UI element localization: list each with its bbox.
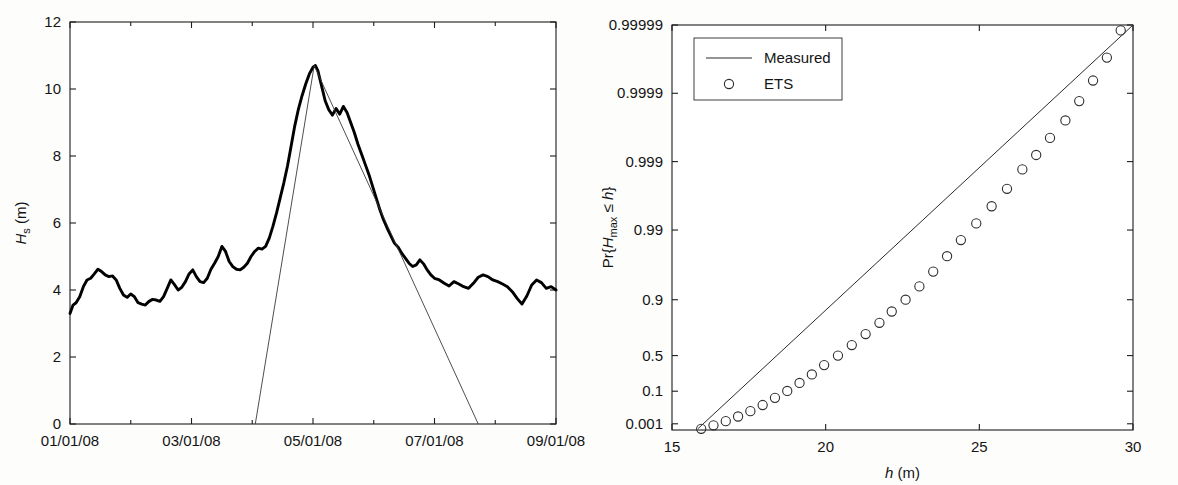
legend-label: Measured: [764, 49, 831, 66]
y-tick-label: 0: [53, 415, 61, 432]
legend-label: ETS: [764, 75, 793, 92]
x-tick-label: 07/01/08: [405, 432, 463, 449]
y-tick-label: 0.99: [634, 221, 663, 238]
y-tick-label: 2: [53, 348, 61, 365]
probability-distribution-chart: 0.0010.10.50.90.990.9990.99990.999991520…: [589, 0, 1178, 485]
y-tick-label: 0.001: [625, 415, 663, 432]
right-chart-panel: 0.0010.10.50.90.990.9990.99990.999991520…: [589, 0, 1178, 485]
x-tick-label: 03/01/08: [162, 432, 220, 449]
legend: MeasuredETS: [694, 38, 842, 100]
left-chart-panel: 02468101201/01/0803/01/0805/01/0807/01/0…: [0, 0, 589, 485]
y-tick-label: 0.9999: [617, 84, 663, 101]
svg-text:Hs (m): Hs (m): [12, 201, 32, 244]
y-tick-label: 0.999: [625, 153, 663, 170]
x-tick-label: 15: [664, 438, 681, 455]
wave-height-timeseries-chart: 02468101201/01/0803/01/0805/01/0807/01/0…: [0, 0, 589, 485]
plot-frame: [70, 22, 556, 424]
y-tick-label: 6: [53, 214, 61, 231]
y-tick-label: 0.9: [642, 291, 663, 308]
x-axis-title: h (m): [885, 464, 920, 481]
x-tick-label: 30: [1125, 438, 1142, 455]
y-tick-label: 8: [53, 147, 61, 164]
y-tick-label: 0.99999: [609, 16, 663, 33]
x-tick-label: 20: [817, 438, 834, 455]
x-tick-label: 01/01/08: [41, 432, 99, 449]
y-axis-title: Hs (m): [12, 201, 32, 244]
y-tick-label: 0.1: [642, 382, 663, 399]
y-tick-label: 4: [53, 281, 61, 298]
y-tick-label: 0.5: [642, 347, 663, 364]
x-tick-label: 09/01/08: [527, 432, 585, 449]
y-tick-label: 12: [44, 13, 61, 30]
y-tick-label: 10: [44, 80, 61, 97]
svg-text:Pr{Hmax ≤ h}: Pr{Hmax ≤ h}: [599, 187, 619, 269]
x-tick-label: 05/01/08: [284, 432, 342, 449]
x-tick-label: 25: [971, 438, 988, 455]
y-axis-title: Pr{Hmax ≤ h}: [599, 187, 619, 269]
figure-container: 02468101201/01/0803/01/0805/01/0807/01/0…: [0, 0, 1178, 485]
